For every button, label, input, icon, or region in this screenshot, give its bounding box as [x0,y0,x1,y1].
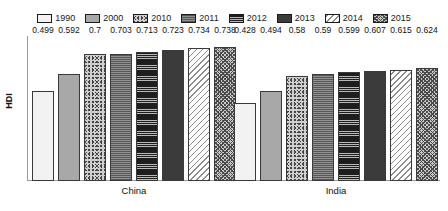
bar-value-label: 0.624 [416,25,437,35]
bar-rect: 0.428 [234,103,256,181]
legend-item-2000[interactable]: 2000 [85,14,123,23]
bar-rect: 0.734 [188,48,210,181]
bar-rect: 0.59 [312,74,334,181]
legend-item-label: 2011 [199,14,218,23]
bar-rect: 0.624 [416,68,438,181]
legend-swatch-icon [229,14,244,23]
bar-value-label: 0.734 [188,25,209,35]
bar-value-label: 0.607 [364,25,385,35]
bar-value-label: 0.428 [234,25,255,35]
legend-item-label: 1990 [55,14,75,23]
legend-item-2013[interactable]: 2013 [277,14,315,23]
x-axis-category-label: India [234,185,438,196]
legend-item-label: 2013 [295,14,315,23]
bar-india-2014[interactable]: 0.615 [390,36,412,181]
bar-group-bars: 0.4990.5920.70.7030.7130.7230.7340.738 [32,36,236,181]
bar-group-india: 0.4280.4940.580.590.5990.6070.6150.624In… [234,36,438,181]
bar-rect: 0.615 [390,70,412,181]
legend-swatch-icon [85,14,100,23]
legend-swatch-icon [325,14,340,23]
bar-india-2013[interactable]: 0.607 [364,36,386,181]
legend-item-1990[interactable]: 1990 [37,14,75,23]
bar-value-label: 0.703 [110,25,131,35]
bar-group-bars: 0.4280.4940.580.590.5990.6070.6150.624 [234,36,438,181]
bar-india-2012[interactable]: 0.599 [338,36,360,181]
bar-china-2012[interactable]: 0.713 [136,36,158,181]
bar-rect: 0.738 [214,47,236,181]
bar-rect: 0.494 [260,91,282,181]
bar-value-label: 0.592 [58,25,79,35]
legend-item-2012[interactable]: 2012 [229,14,267,23]
legend-item-2010[interactable]: 2010 [133,14,171,23]
bar-rect: 0.58 [286,76,308,181]
legend-item-label: 2000 [103,14,123,23]
legend-swatch-icon [37,14,52,23]
bar-china-2014[interactable]: 0.734 [188,36,210,181]
legend-item-label: 2014 [343,14,363,23]
bar-china-2010[interactable]: 0.7 [84,36,106,181]
bar-rect: 0.703 [110,54,132,181]
bar-value-label: 0.494 [260,25,281,35]
bar-value-label: 0.738 [214,25,235,35]
bar-groups: 0.4990.5920.70.7030.7130.7230.7340.738Ch… [28,36,440,181]
bar-value-label: 0.723 [162,25,183,35]
bar-india-2010[interactable]: 0.58 [286,36,308,181]
bar-india-2000[interactable]: 0.494 [260,36,282,181]
x-axis-category-label: China [32,185,236,196]
bar-china-2013[interactable]: 0.723 [162,36,184,181]
bar-china-1990[interactable]: 0.499 [32,36,54,181]
bar-rect: 0.607 [364,71,386,181]
bar-rect: 0.592 [58,74,80,181]
bar-india-2011[interactable]: 0.59 [312,36,334,181]
legend-item-label: 2012 [247,14,267,23]
legend-item-2014[interactable]: 2014 [325,14,363,23]
bar-rect: 0.723 [162,50,184,181]
bar-value-label: 0.713 [136,25,157,35]
bar-value-label: 0.499 [32,25,53,35]
bar-china-2011[interactable]: 0.703 [110,36,132,181]
bar-value-label: 0.58 [289,25,306,35]
bar-value-label: 0.615 [390,25,411,35]
legend-item-2015[interactable]: 2015 [373,14,411,23]
legend-swatch-icon [277,14,292,23]
bar-rect: 0.599 [338,72,360,181]
legend-item-label: 2015 [391,14,411,23]
bar-india-1990[interactable]: 0.428 [234,36,256,181]
bar-china-2015[interactable]: 0.738 [214,36,236,181]
bar-rect: 0.7 [84,54,106,181]
legend-swatch-icon [373,14,388,23]
bar-value-label: 0.59 [315,25,332,35]
bar-group-china: 0.4990.5920.70.7030.7130.7230.7340.738Ch… [32,36,236,181]
y-axis-title: HDI [4,88,14,114]
bar-china-2000[interactable]: 0.592 [58,36,80,181]
legend-swatch-icon [133,14,148,23]
hdi-grouped-bar-chart: 19902000201020112012201320142015 HDI 0.4… [0,0,448,211]
bar-value-label: 0.7 [89,25,101,35]
legend-item-label: 2010 [151,14,171,23]
bar-value-label: 0.599 [338,25,359,35]
bar-rect: 0.499 [32,91,54,181]
legend-item-2011[interactable]: 2011 [181,14,218,23]
legend-swatch-icon [181,14,196,23]
bar-rect: 0.713 [136,52,158,181]
bar-india-2015[interactable]: 0.624 [416,36,438,181]
